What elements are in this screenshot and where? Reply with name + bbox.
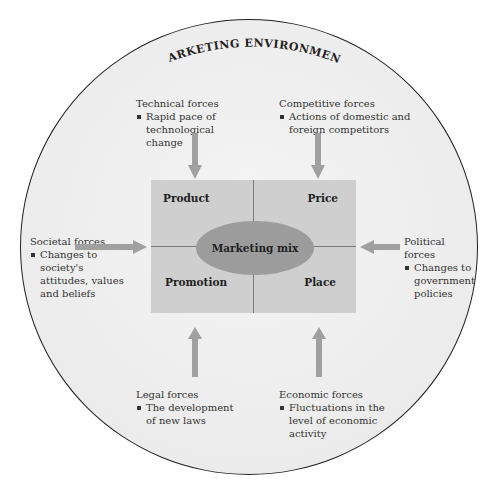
quadrant-product: Product bbox=[163, 192, 210, 204]
arrow-down-technical-icon bbox=[188, 133, 202, 179]
force-bullet: The development of new laws bbox=[136, 401, 246, 427]
svg-text:MARKETING ENVIRONMENT: MARKETING ENVIRONMENT bbox=[0, 0, 343, 66]
force-bullet: Fluctuations in the level of economic ac… bbox=[279, 401, 399, 440]
force-political: Political forces Changes to government p… bbox=[404, 235, 476, 300]
force-competitive: Competitive forces Actions of domestic a… bbox=[279, 97, 419, 136]
arrow-down-competitive-icon bbox=[311, 133, 325, 179]
marketing-mix-box: Product Price Promotion Place Marketing … bbox=[151, 180, 356, 313]
marketing-mix-label: Marketing mix bbox=[212, 242, 299, 254]
force-bullet: Changes to government policies bbox=[404, 261, 476, 300]
force-title: Technical forces bbox=[136, 97, 246, 110]
quadrant-price: Price bbox=[308, 192, 339, 204]
force-bullet: Actions of domestic and foreign competit… bbox=[279, 110, 419, 136]
force-legal: Legal forces The development of new laws bbox=[136, 388, 246, 427]
quadrant-place: Place bbox=[304, 276, 336, 288]
force-title: Legal forces bbox=[136, 388, 246, 401]
force-title: Competitive forces bbox=[279, 97, 419, 110]
arrow-up-economic-icon bbox=[312, 327, 326, 377]
arrow-left-political-icon bbox=[360, 240, 400, 254]
marketing-mix-ellipse: Marketing mix bbox=[196, 221, 314, 275]
force-economic: Economic forces Fluctuations in the leve… bbox=[279, 388, 399, 440]
force-bullet: Changes to society's attitudes, values a… bbox=[30, 248, 130, 300]
environment-title-text: MARKETING ENVIRONMENT bbox=[0, 0, 343, 66]
arrow-up-legal-icon bbox=[188, 327, 202, 377]
quadrant-promotion: Promotion bbox=[165, 276, 227, 288]
arrow-right-societal-icon bbox=[75, 240, 147, 254]
force-title: Political forces bbox=[404, 235, 476, 261]
force-title: Economic forces bbox=[279, 388, 399, 401]
environment-title: MARKETING ENVIRONMENT bbox=[0, 0, 502, 80]
